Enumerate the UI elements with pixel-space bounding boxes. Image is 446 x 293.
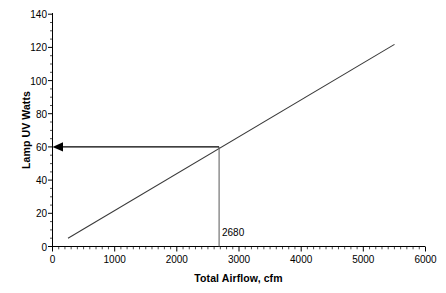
y-axis-title: Lamp UV Watts — [18, 14, 34, 246]
x-tick-label-3000: 3000 — [228, 254, 250, 265]
chart-plot-area — [0, 0, 446, 293]
data-series-line — [68, 44, 395, 238]
chart-container: 140 120 100 80 60 40 20 0 0 1000 2000 30… — [0, 0, 446, 293]
x-tick-label-5000: 5000 — [352, 254, 374, 265]
annotation-value-label: 2680 — [222, 227, 244, 238]
x-tick-label-1000: 1000 — [104, 254, 126, 265]
x-tick-label-6000: 6000 — [414, 254, 436, 265]
x-axis-title: Total Airflow, cfm — [52, 272, 425, 284]
x-tick-label-0: 0 — [50, 254, 56, 265]
x-tick-label-2000: 2000 — [166, 254, 188, 265]
annotation-arrow-head — [53, 142, 64, 151]
x-tick-label-4000: 4000 — [290, 254, 312, 265]
